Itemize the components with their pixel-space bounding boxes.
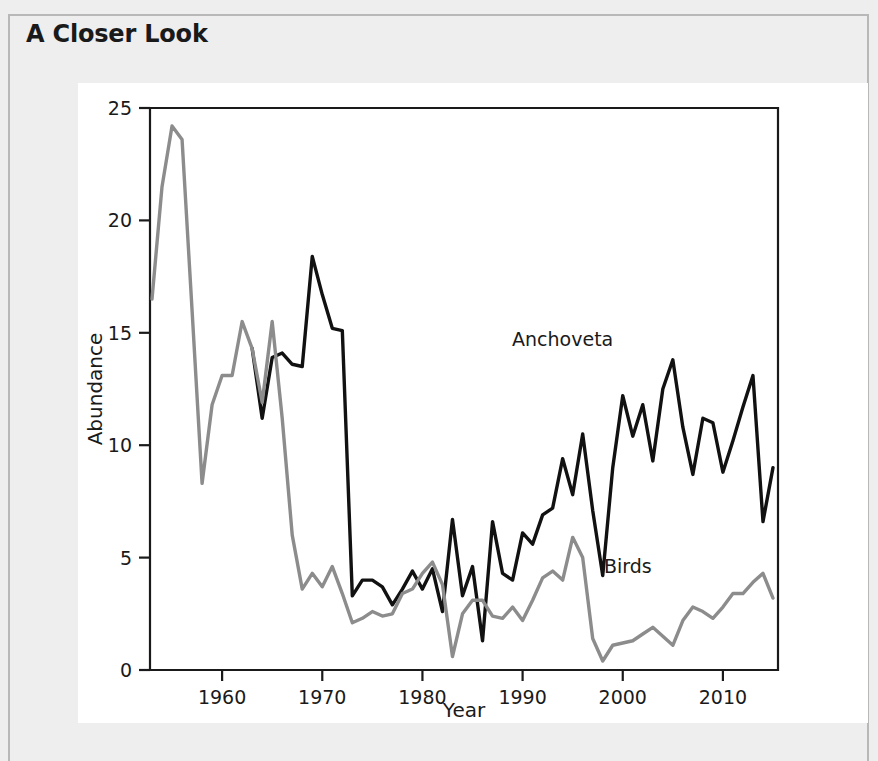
y-tick-marks: [139, 108, 150, 670]
plot-frame: [150, 108, 778, 670]
series-line-birds: [152, 126, 773, 661]
section-title: A Closer Look: [26, 20, 208, 48]
y-tick-label-25: 25: [108, 97, 132, 119]
series-label-birds: Birds: [604, 555, 652, 577]
abundance-line-chart: 0510152025 196019701980199020002010 Abun…: [78, 83, 868, 723]
x-tick-label-1980: 1980: [398, 686, 446, 708]
x-tick-marks: [222, 670, 723, 681]
chart-axes: [139, 108, 778, 681]
x-tick-label-2000: 2000: [599, 686, 647, 708]
y-tick-label-15: 15: [108, 322, 132, 344]
y-tick-label-20: 20: [108, 209, 132, 231]
y-tick-label-10: 10: [108, 434, 132, 456]
y-tick-label-5: 5: [120, 547, 132, 569]
figure-panel: 0510152025 196019701980199020002010 Abun…: [78, 83, 868, 723]
x-tick-label-1990: 1990: [498, 686, 546, 708]
x-tick-label-2010: 2010: [699, 686, 747, 708]
series-line-anchoveta: [252, 256, 773, 640]
y-tick-label-0: 0: [120, 659, 132, 681]
x-tick-label-1960: 1960: [198, 686, 246, 708]
x-axis-title: Year: [442, 698, 486, 722]
page-root: A Closer Look 0510152025 196019701980199…: [0, 0, 878, 761]
y-tick-labels: 0510152025: [108, 97, 132, 681]
y-axis-title: Abundance: [83, 333, 107, 446]
chart-series: [152, 126, 773, 661]
series-label-anchoveta: Anchoveta: [512, 328, 613, 350]
x-tick-label-1970: 1970: [298, 686, 346, 708]
